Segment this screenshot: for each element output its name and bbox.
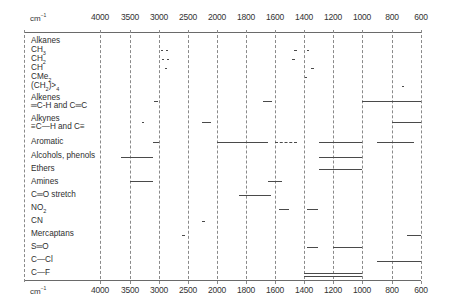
absorption-band <box>182 235 185 236</box>
tick-label-top-2000: 2000 <box>208 12 226 22</box>
tick-label-top-600: 600 <box>414 12 428 22</box>
row-label: CH <box>31 63 43 72</box>
absorption-band <box>202 221 205 222</box>
row-label: Alkanes <box>31 36 60 45</box>
gridline-2500 <box>188 30 189 284</box>
tick-label-bottom-2500: 2500 <box>179 285 197 295</box>
absorption-band <box>161 50 163 51</box>
row-label: Alcohols, phenols <box>31 151 95 160</box>
left-border <box>24 30 25 282</box>
tick-label-top-1000: 1000 <box>353 12 371 22</box>
absorption-band <box>292 59 295 60</box>
absorption-band <box>202 122 211 123</box>
gridline-1400 <box>304 30 305 284</box>
absorption-band <box>392 122 421 123</box>
tick-label-top-3000: 3000 <box>150 12 168 22</box>
absorption-band <box>319 169 363 170</box>
row-label: C—Cl <box>31 255 53 264</box>
tick-label-top-1400: 1400 <box>295 12 313 22</box>
absorption-band <box>311 68 314 69</box>
absorption-band <box>121 157 153 158</box>
absorption-band <box>263 101 272 102</box>
absorption-band <box>407 235 422 236</box>
absorption-band <box>402 86 404 87</box>
absorption-band <box>268 181 283 182</box>
absorption-band <box>307 209 319 210</box>
absorption-band <box>162 59 164 60</box>
tick-label-bottom-4000: 4000 <box>91 285 109 295</box>
tick-label-bottom-1400: 1400 <box>295 285 313 295</box>
unit-label-top: cm−1 <box>30 12 46 23</box>
absorption-band <box>377 261 421 262</box>
row-label: CN <box>31 216 43 225</box>
tick-label-bottom-3000: 3000 <box>150 285 168 295</box>
tick-label-top-2500: 2500 <box>179 12 197 22</box>
gridline-1000 <box>362 30 363 284</box>
gridline-3000 <box>159 30 160 284</box>
tick-label-bottom-2000: 2000 <box>208 285 226 295</box>
absorption-band <box>154 101 158 102</box>
tick-label-bottom-1800: 1800 <box>237 285 255 295</box>
tick-label-bottom-1000: 1000 <box>353 285 371 295</box>
row-label: (CH2)>4 <box>31 81 59 94</box>
absorption-band <box>275 142 297 143</box>
row-label: C═O stretch <box>31 190 76 199</box>
gridline-600 <box>421 30 422 284</box>
gridline-1800 <box>246 30 247 284</box>
absorption-band <box>333 247 362 248</box>
row-label: ≡C—H and C≡ <box>31 122 85 131</box>
row-label: ═C-H and C═C <box>31 101 87 110</box>
absorption-band <box>304 273 362 277</box>
row-label: NO2 <box>31 203 46 216</box>
row-label: Mercaptans <box>31 229 74 238</box>
ir-correlation-chart: cm−1 40003500300025002000180016001400120… <box>0 0 453 307</box>
row-label: Ethers <box>31 164 55 173</box>
absorption-band <box>142 122 145 123</box>
tick-label-top-1800: 1800 <box>237 12 255 22</box>
absorption-band <box>305 77 307 78</box>
absorption-band <box>307 50 309 51</box>
tick-label-top-3500: 3500 <box>121 12 139 22</box>
unit-label-bottom: cm−1 <box>30 285 46 296</box>
gridline-2000 <box>217 30 218 284</box>
absorption-band <box>377 142 414 143</box>
absorption-band <box>217 142 268 143</box>
absorption-band <box>319 157 363 158</box>
row-label: Amines <box>31 177 58 186</box>
absorption-band <box>165 68 167 69</box>
gridline-800 <box>392 30 393 284</box>
absorption-band <box>294 50 297 51</box>
tick-label-top-800: 800 <box>385 12 399 22</box>
absorption-band <box>307 247 319 248</box>
absorption-band <box>167 59 169 60</box>
tick-label-bottom-800: 800 <box>385 285 399 295</box>
absorption-band <box>319 142 363 143</box>
tick-label-top-1200: 1200 <box>324 12 342 22</box>
tick-label-bottom-1600: 1600 <box>266 285 284 295</box>
row-label: Aromatic <box>31 137 63 146</box>
tick-label-top-4000: 4000 <box>91 12 109 22</box>
gridline-1600 <box>275 30 276 284</box>
absorption-band <box>130 181 153 182</box>
absorption-band <box>362 101 421 102</box>
absorption-band <box>166 50 168 51</box>
absorption-band <box>279 209 289 210</box>
absorption-band <box>153 142 159 143</box>
tick-label-bottom-3500: 3500 <box>121 285 139 295</box>
tick-label-bottom-1200: 1200 <box>324 285 342 295</box>
tick-label-bottom-600: 600 <box>414 285 428 295</box>
absorption-band <box>239 195 271 196</box>
row-label: C—F <box>31 268 50 277</box>
gridline-4000 <box>100 30 101 284</box>
row-label: S═O <box>31 242 49 251</box>
tick-label-top-1600: 1600 <box>266 12 284 22</box>
